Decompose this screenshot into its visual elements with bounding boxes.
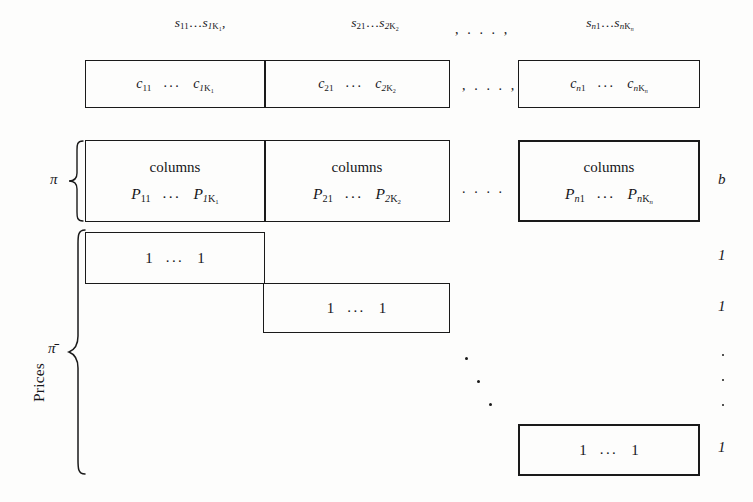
diagonal-dot-2 bbox=[477, 380, 480, 383]
p-block-n: columns Pn1 ... PnKn bbox=[518, 140, 700, 222]
ones-cells-2: 1 ... 1 bbox=[327, 300, 386, 317]
ones-left-2: 1 bbox=[327, 300, 335, 317]
ones-block-2: 1 ... 1 bbox=[263, 283, 450, 333]
header-label-block-1: s11…s1K1, bbox=[125, 16, 275, 30]
brace-pi bbox=[66, 140, 86, 226]
ones-block-1: 1 ... 1 bbox=[85, 232, 265, 284]
p-cells-1: P11 ... P1K1 bbox=[131, 185, 218, 203]
p-block-divider bbox=[264, 140, 266, 222]
inline-ellipsis: ... bbox=[151, 75, 193, 91]
brace-label-pi: π bbox=[50, 172, 58, 187]
ones-left-n: 1 bbox=[579, 442, 587, 459]
inline-ellipsis: ... bbox=[333, 184, 376, 202]
rhs-label-b: b bbox=[718, 172, 726, 187]
rhs-vertical-dots bbox=[721, 354, 725, 406]
inline-ellipsis: ... bbox=[151, 184, 194, 202]
diagonal-dot-3 bbox=[489, 403, 492, 406]
header-ellipsis: , . . . , bbox=[455, 22, 510, 38]
p-row-ellipsis: . . . . bbox=[462, 181, 505, 197]
cost-block-1: c11 ... c1K1 bbox=[85, 60, 265, 108]
cost-row-ellipsis: , . . . , bbox=[462, 78, 517, 94]
rhs-dot-1 bbox=[722, 354, 724, 356]
p-cells-n: Pn1 ... PnKn bbox=[565, 185, 653, 203]
header-label-block-n: sn1…snKn bbox=[535, 16, 685, 30]
figure-canvas: Prices s11…s1K1, s21…s2K2 , . . . , sn1…… bbox=[0, 0, 753, 502]
inline-ellipsis: ... bbox=[587, 441, 631, 458]
rhs-label-one-2: 1 bbox=[718, 299, 726, 314]
rhs-label-one-1: 1 bbox=[718, 248, 726, 263]
diagonal-dot-1 bbox=[465, 357, 468, 360]
p-cells-2: P21 ... P2K2 bbox=[313, 185, 401, 203]
rhs-label-one-n: 1 bbox=[718, 440, 726, 455]
cost-cells-n: cn1 ... cnKn bbox=[570, 76, 648, 92]
inline-ellipsis: ... bbox=[334, 75, 376, 91]
header-label-block-2: s21…s2K2 bbox=[300, 16, 450, 30]
brace-label-pi-bar: π̄ bbox=[48, 341, 56, 356]
columns-label-1: columns bbox=[150, 159, 201, 176]
ones-right-2: 1 bbox=[379, 300, 387, 317]
inline-ellipsis: ... bbox=[585, 184, 628, 202]
rhs-dot-3 bbox=[722, 404, 724, 406]
inline-ellipsis: ... bbox=[586, 75, 628, 91]
columns-label-2: columns bbox=[332, 159, 383, 176]
ones-right-n: 1 bbox=[631, 442, 639, 459]
ones-block-n: 1 ... 1 bbox=[518, 424, 700, 476]
vertical-caption-prices: Prices bbox=[30, 363, 48, 402]
cost-cells-2: c21 ... c2K2 bbox=[318, 76, 396, 92]
p-block-1: columns P11 ... P1K1 bbox=[85, 140, 265, 222]
rhs-dot-2 bbox=[722, 379, 724, 381]
cost-block-n: cn1 ... cnKn bbox=[518, 60, 700, 108]
cost-cells-1: c11 ... c1K1 bbox=[136, 76, 213, 92]
columns-label-n: columns bbox=[584, 159, 635, 176]
cost-block-2: c21 ... c2K2 bbox=[265, 60, 450, 108]
ones-cells-n: 1 ... 1 bbox=[579, 442, 638, 459]
ones-right-1: 1 bbox=[197, 250, 205, 267]
p-block-2: columns P21 ... P2K2 bbox=[265, 140, 450, 222]
ones-cells-1: 1 ... 1 bbox=[145, 250, 204, 267]
ones-left-1: 1 bbox=[145, 250, 153, 267]
inline-ellipsis: ... bbox=[334, 299, 378, 316]
cost-block-divider bbox=[264, 60, 266, 108]
inline-ellipsis: ... bbox=[153, 249, 197, 266]
